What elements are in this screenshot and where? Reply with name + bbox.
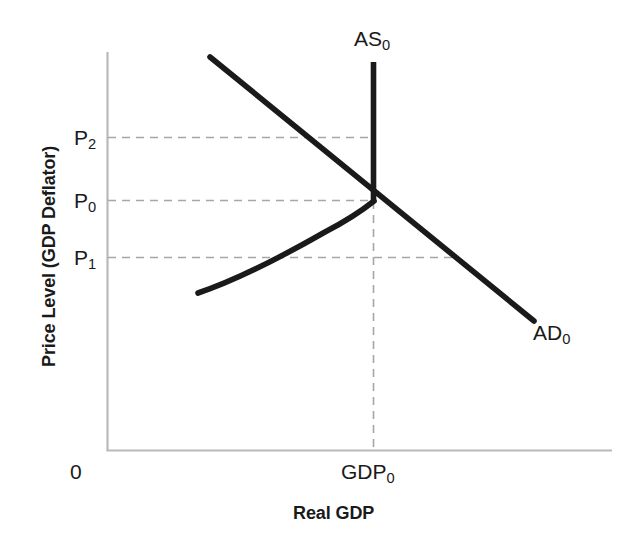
aggregate-supply-label: AS0 — [354, 28, 390, 49]
y-tick-p0-sub: 0 — [88, 199, 96, 215]
y-tick-p1-sub: 1 — [88, 256, 96, 272]
x-axis-title: Real GDP — [293, 504, 374, 522]
chart-plot-area — [0, 0, 638, 548]
y-axis-title: Price Level (GDP Deflator) — [40, 146, 58, 367]
as-label-sub: 0 — [382, 37, 390, 53]
x-tick-gdp0-sub: 0 — [387, 470, 395, 486]
y-tick-p0-main: P — [74, 189, 88, 212]
x-tick-label-gdp0: GDP0 — [341, 461, 395, 482]
short-run-aggregate-supply-curve — [198, 201, 374, 293]
y-tick-p2-main: P — [74, 126, 88, 149]
y-tick-label-p2: P2 — [74, 127, 96, 148]
aggregate-demand-label: AD0 — [533, 322, 570, 343]
y-tick-label-p1: P1 — [74, 247, 96, 268]
asad-chart: Price Level (GDP Deflator) Real GDP 0 P2… — [0, 0, 638, 548]
origin-label: 0 — [70, 461, 82, 482]
ad-label-main: AD — [533, 321, 562, 344]
y-tick-label-p0: P0 — [74, 190, 96, 211]
y-tick-p1-main: P — [74, 246, 88, 269]
as-label-main: AS — [354, 27, 382, 50]
x-tick-gdp0-main: GDP — [341, 460, 387, 483]
ad-label-sub: 0 — [562, 331, 570, 347]
y-tick-p2-sub: 2 — [88, 136, 96, 152]
